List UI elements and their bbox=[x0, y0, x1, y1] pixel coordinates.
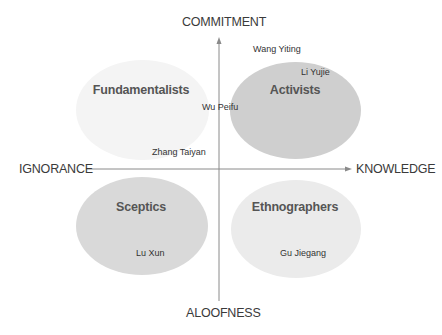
person-zhang-taiyan: Zhang Taiyan bbox=[152, 147, 206, 157]
person-wu-peifu: Wu Peifu bbox=[202, 102, 238, 112]
axis-label-commitment: COMMITMENT bbox=[182, 15, 266, 29]
axis-label-knowledge: KNOWLEDGE bbox=[356, 162, 435, 176]
person-li-yujie: Li Yujie bbox=[301, 67, 330, 77]
person-wang-yiting: Wang Yiting bbox=[253, 44, 301, 54]
person-gu-jiegang: Gu Jiegang bbox=[280, 248, 326, 258]
axis-label-ignorance: IGNORANCE bbox=[19, 162, 93, 176]
person-lu-xun: Lu Xun bbox=[136, 248, 165, 258]
quadrant-label-sceptics: Sceptics bbox=[116, 200, 166, 214]
axis-label-aloofness: ALOOFNESS bbox=[186, 306, 261, 320]
quadrant-label-ethnographers: Ethnographers bbox=[252, 200, 338, 214]
quadrant-label-activists: Activists bbox=[270, 83, 320, 97]
quadrant-label-fundamentalists: Fundamentalists bbox=[93, 83, 189, 97]
